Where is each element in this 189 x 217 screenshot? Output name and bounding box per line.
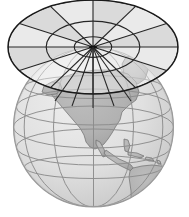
figure-canvas [0,0,189,217]
land-south-america [129,165,171,207]
globe-projection-diagram [0,0,189,217]
